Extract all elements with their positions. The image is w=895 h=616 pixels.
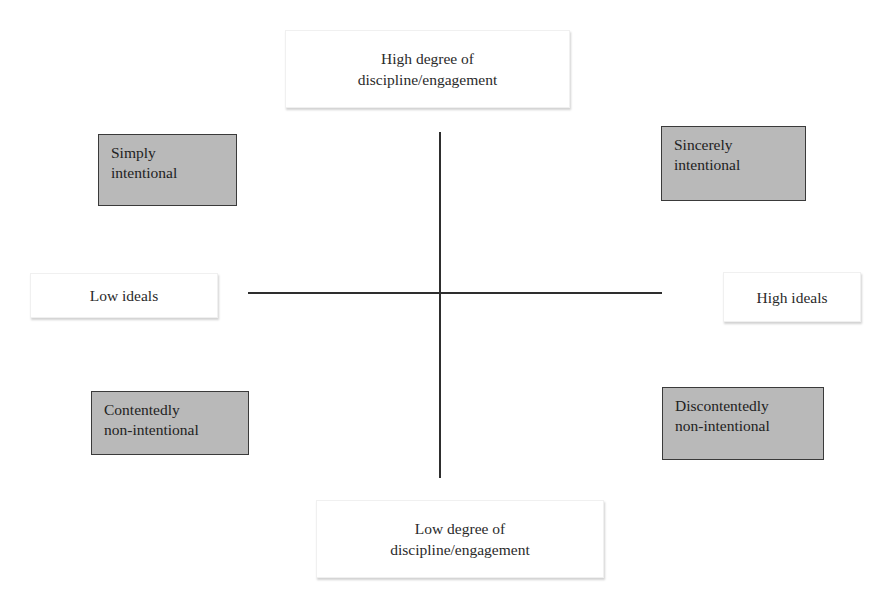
quadrant-top-left-simply-intentional: Simply intentional bbox=[98, 134, 237, 206]
top-axis-label: High degree of discipline/engagement bbox=[285, 30, 570, 108]
quadrant-top-right-line-2: intentional bbox=[674, 155, 805, 175]
top-axis-label-line-1: High degree of bbox=[358, 48, 497, 69]
bottom-axis-label-line-2: discipline/engagement bbox=[390, 539, 529, 560]
left-axis-label: Low ideals bbox=[30, 273, 218, 318]
quadrant-bottom-left-line-2: non-intentional bbox=[104, 420, 248, 440]
quadrant-bottom-left-line-1: Contentedly bbox=[104, 400, 248, 420]
quadrant-bottom-right-line-1: Discontentedly bbox=[675, 396, 823, 416]
quadrant-top-left-line-1: Simply bbox=[111, 143, 236, 163]
quadrant-top-left-line-2: intentional bbox=[111, 163, 236, 183]
horizontal-axis-line bbox=[248, 292, 662, 294]
quadrant-bottom-right-discontentedly-non-intentional: Discontentedly non-intentional bbox=[662, 387, 824, 460]
vertical-axis-line bbox=[439, 132, 441, 478]
top-axis-label-line-2: discipline/engagement bbox=[358, 69, 497, 90]
right-axis-label-text: High ideals bbox=[756, 287, 827, 308]
quadrant-top-right-line-1: Sincerely bbox=[674, 135, 805, 155]
quadrant-top-right-sincerely-intentional: Sincerely intentional bbox=[661, 126, 806, 201]
right-axis-label: High ideals bbox=[723, 272, 861, 322]
bottom-axis-label: Low degree of discipline/engagement bbox=[316, 500, 604, 578]
quadrant-bottom-left-contentedly-non-intentional: Contentedly non-intentional bbox=[91, 391, 249, 455]
left-axis-label-text: Low ideals bbox=[90, 285, 158, 306]
quadrant-bottom-right-line-2: non-intentional bbox=[675, 416, 823, 436]
bottom-axis-label-line-1: Low degree of bbox=[390, 518, 529, 539]
